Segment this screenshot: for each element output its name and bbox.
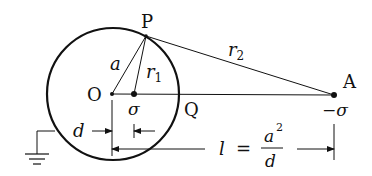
point-A [331, 92, 337, 98]
diagram-svg: P O σ Q A −σ a r1 r2 d l = a 2 d [0, 0, 372, 176]
svg-text:=: = [236, 138, 251, 159]
axis-line [112, 94, 334, 95]
ground-icon [25, 131, 55, 164]
point-O [110, 92, 114, 96]
point-P [144, 34, 148, 38]
svg-text:a: a [264, 126, 274, 146]
l-formula: l = a 2 d [219, 121, 283, 171]
label-A: A [342, 71, 357, 92]
label-Q: Q [184, 99, 199, 120]
point-sigma [131, 91, 137, 97]
label-P: P [141, 11, 153, 32]
svg-text:d: d [265, 151, 276, 171]
image-charge-diagram: P O σ Q A −σ a r1 r2 d l = a 2 d [0, 0, 372, 176]
svg-text:2: 2 [276, 121, 283, 134]
label-d: d [73, 120, 85, 141]
svg-text:l: l [219, 138, 225, 159]
label-r2: r2 [228, 39, 244, 63]
label-a: a [110, 53, 121, 74]
segment-r2 [146, 36, 334, 95]
label-O: O [87, 84, 102, 105]
label-minus-sigma: −σ [322, 100, 348, 120]
segment-r1 [134, 36, 146, 94]
label-r1: r1 [146, 61, 162, 85]
label-sigma: σ [128, 99, 140, 119]
